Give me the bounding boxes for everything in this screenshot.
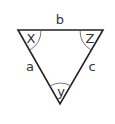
angle-label-top-right: Z <box>86 31 95 46</box>
side-label-top: b <box>56 12 64 27</box>
angle-label-bottom: y <box>57 84 65 99</box>
triangle-diagram: b X Z a c y <box>0 0 115 124</box>
side-label-right: c <box>88 59 95 74</box>
angle-label-top-left: X <box>27 31 36 46</box>
side-label-left: a <box>26 59 34 74</box>
